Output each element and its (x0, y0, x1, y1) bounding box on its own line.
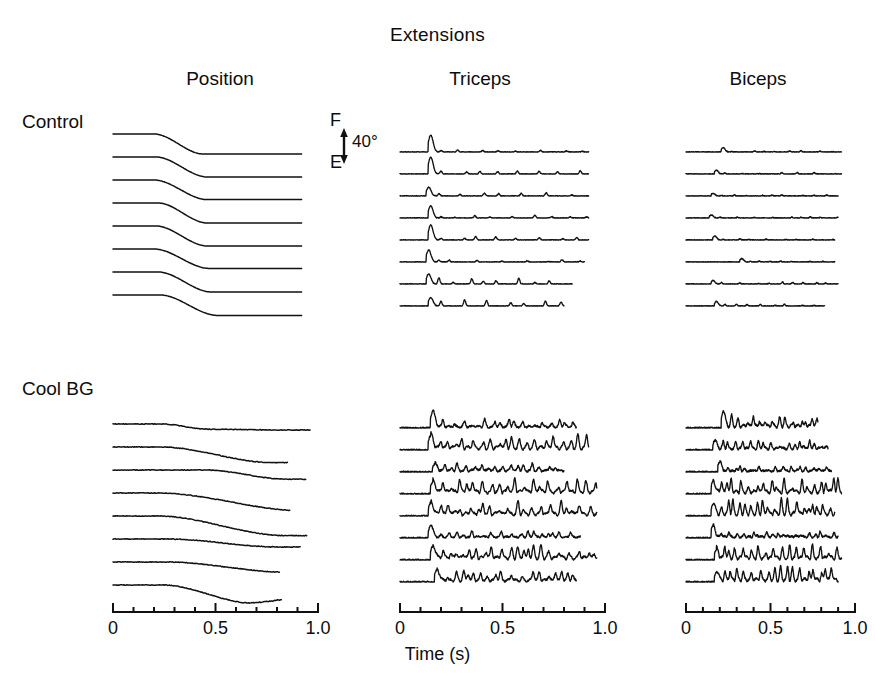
trace (113, 157, 302, 177)
trace (400, 250, 585, 262)
x-axis-tick-label: 0 (670, 618, 702, 639)
trace (400, 135, 589, 152)
x-axis-tick-label: 0 (384, 618, 416, 639)
trace (686, 566, 838, 583)
trace-layer (113, 134, 842, 603)
trace (400, 225, 589, 240)
figure-extensions: Extensions Position Triceps Biceps Contr… (0, 0, 875, 690)
trace (686, 148, 842, 153)
trace (113, 180, 302, 200)
figure-canvas (0, 0, 875, 690)
trace (686, 497, 835, 516)
trace (686, 439, 828, 450)
trace (686, 280, 838, 284)
trace (113, 470, 306, 480)
trace (113, 585, 281, 604)
trace (686, 411, 818, 428)
trace (113, 562, 279, 573)
trace (113, 447, 287, 463)
trace (686, 544, 842, 560)
trace (113, 272, 302, 292)
trace (686, 258, 835, 262)
trace (113, 226, 302, 246)
trace (400, 462, 564, 472)
trace (113, 134, 302, 154)
trace (113, 203, 302, 223)
trace (113, 249, 302, 268)
trace (400, 297, 564, 306)
trace (400, 432, 589, 450)
trace (113, 539, 300, 548)
x-axis-tick-label: 1.0 (839, 618, 871, 639)
trace (400, 545, 597, 560)
trace (400, 157, 589, 174)
trace (400, 274, 572, 284)
trace (686, 524, 838, 538)
trace (686, 215, 838, 218)
trace (400, 206, 589, 218)
trace (686, 193, 838, 196)
x-axis-tick-label: 0 (97, 618, 129, 639)
x-axis-tick-label: 0.5 (755, 618, 787, 639)
trace (400, 568, 576, 582)
trace (113, 516, 307, 536)
trace (686, 461, 831, 472)
x-axis-tick-label: 1.0 (302, 618, 334, 639)
x-axis-tick-label: 0.5 (200, 618, 232, 639)
trace (686, 301, 825, 306)
trace (113, 493, 290, 511)
trace (686, 478, 842, 494)
trace (400, 187, 589, 196)
trace (686, 236, 835, 240)
trace (113, 295, 302, 315)
trace (400, 478, 597, 494)
axes-layer (113, 604, 855, 612)
double-arrow-vertical-icon (340, 128, 348, 164)
trace (686, 170, 842, 174)
trace (400, 410, 576, 428)
trace (400, 500, 597, 516)
trace (400, 525, 580, 538)
x-axis-tick-label: 0.5 (487, 618, 519, 639)
x-axis-tick-label: 1.0 (589, 618, 621, 639)
trace (113, 424, 310, 431)
